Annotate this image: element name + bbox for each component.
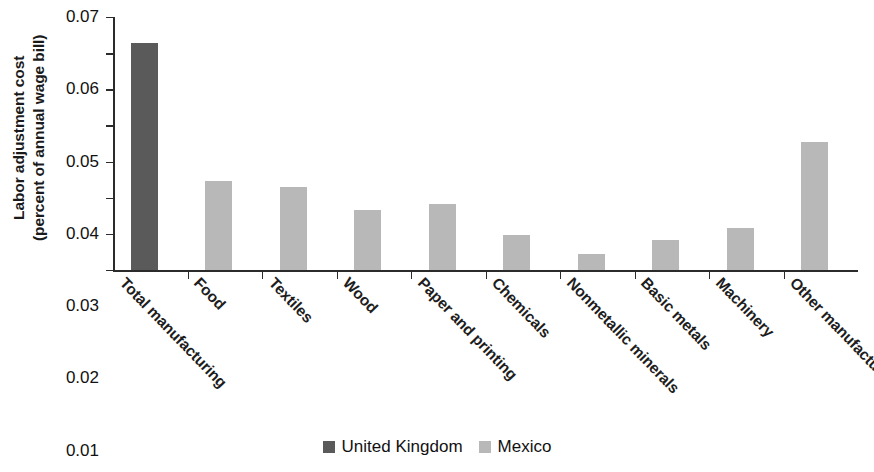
legend-label: United Kingdom bbox=[342, 437, 463, 457]
chart-legend: United KingdomMexico bbox=[0, 437, 874, 457]
x-axis-category-label: Other manufacturing bbox=[786, 274, 874, 395]
bar bbox=[280, 187, 307, 270]
legend-item: Mexico bbox=[479, 437, 552, 457]
bar-chart-figure: Labor adjustment cost (percent of annual… bbox=[0, 0, 874, 472]
legend-item: United Kingdom bbox=[323, 437, 463, 457]
x-axis-category-label: Textiles bbox=[265, 274, 317, 327]
y-axis-tick: 0.01 bbox=[106, 234, 113, 235]
y-axis-line bbox=[113, 17, 115, 270]
y-axis-tick-label: 0.07 bbox=[66, 7, 99, 27]
y-axis-tick-label: 0.05 bbox=[66, 152, 99, 172]
legend-label: Mexico bbox=[498, 437, 552, 457]
bar bbox=[205, 181, 232, 270]
x-axis-category-label: Wood bbox=[339, 274, 381, 317]
y-axis-tick: 0.04 bbox=[106, 125, 113, 126]
bar bbox=[429, 204, 456, 270]
y-axis-tick: 0.05 bbox=[106, 89, 113, 90]
bar bbox=[354, 210, 381, 270]
legend-swatch-icon bbox=[479, 441, 491, 453]
y-axis-tick-label: 0.04 bbox=[66, 224, 99, 244]
plot-area: 00.010.020.030.040.050.060.07 bbox=[113, 17, 858, 270]
bar bbox=[727, 228, 754, 270]
y-axis-tick: 0.06 bbox=[106, 53, 113, 54]
y-axis-title-line-2: (percent of annual wage bill) bbox=[29, 34, 49, 240]
legend-swatch-icon bbox=[323, 441, 335, 453]
y-axis-tick: 0 bbox=[106, 270, 113, 271]
bar bbox=[578, 254, 605, 270]
bar bbox=[801, 142, 828, 270]
x-axis-category-labels: Total manufacturingFoodTextilesWoodPaper… bbox=[113, 274, 858, 424]
y-axis-tick-label: 0.03 bbox=[66, 296, 99, 316]
bar bbox=[503, 235, 530, 270]
y-axis-tick-label: 0.06 bbox=[66, 79, 99, 99]
y-axis-title: Labor adjustment cost (percent of annual… bbox=[0, 0, 58, 275]
bar bbox=[652, 240, 679, 270]
y-axis-tick: 0.02 bbox=[106, 198, 113, 199]
x-axis-category-label: Basic metals bbox=[637, 274, 715, 354]
y-axis-title-line-1: Labor adjustment cost bbox=[9, 34, 29, 240]
y-axis-tick: 0.07 bbox=[106, 17, 113, 18]
x-axis-category-label: Machinery bbox=[712, 274, 778, 341]
x-axis-category-label: Chemicals bbox=[488, 274, 554, 342]
y-axis-tick: 0.03 bbox=[106, 162, 113, 163]
x-axis-category-label: Food bbox=[190, 274, 229, 313]
y-axis-tick-label: 0.02 bbox=[66, 368, 99, 388]
bar bbox=[131, 43, 158, 270]
